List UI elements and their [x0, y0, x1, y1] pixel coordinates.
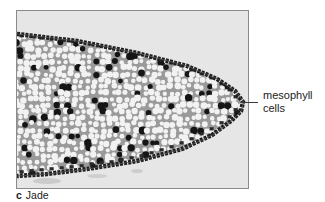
figure-caption: cJade	[16, 189, 49, 201]
label-line-1: mesophyll	[263, 89, 313, 102]
panel-letter: c	[16, 189, 22, 201]
micrograph-image	[16, 10, 249, 189]
mesophyll-cells-label: mesophyll cells	[263, 89, 313, 115]
figure: mesophyll cells cJade	[0, 0, 325, 202]
label-line-2: cells	[263, 102, 313, 115]
caption-text: Jade	[26, 189, 49, 201]
leaf-cross-section	[17, 11, 248, 188]
annotation-leader-line	[241, 102, 258, 103]
